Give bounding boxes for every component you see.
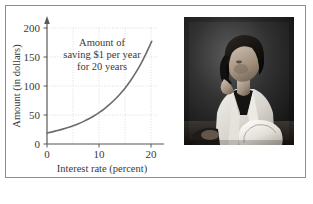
annotation-line-1: Amount of	[79, 37, 125, 48]
chart: 0 50 100 150 200 0 10 20 Interest rate (…	[6, 6, 171, 176]
x-axis-title: Interest rate (percent)	[57, 163, 148, 175]
figure-panel: 0 50 100 150 200 0 10 20 Interest rate (…	[0, 0, 313, 204]
photo-left-hand	[201, 130, 219, 140]
y-axis-title: Amount (in dollars)	[11, 44, 23, 128]
annotation-line-2: saving $1 per year	[63, 49, 141, 60]
photo-eye	[236, 61, 242, 64]
photo-face-shadow	[234, 64, 248, 74]
x-tick-label-20: 20	[146, 148, 158, 160]
y-tick-label-100: 100	[24, 80, 41, 92]
photo-image	[184, 17, 294, 145]
y-tick-label-200: 200	[24, 22, 41, 34]
y-tick-label-150: 150	[24, 51, 41, 63]
y-tick-label-0: 0	[35, 138, 41, 150]
x-tick-label-0: 0	[44, 148, 50, 160]
photograph	[184, 17, 294, 145]
x-tick-label-10: 10	[94, 148, 106, 160]
chart-svg: 0 50 100 150 200 0 10 20 Interest rate (…	[6, 6, 171, 176]
y-axis-arrow	[44, 16, 50, 24]
annotation-line-3: for 20 years	[77, 61, 127, 72]
y-tick-label-50: 50	[29, 109, 41, 121]
